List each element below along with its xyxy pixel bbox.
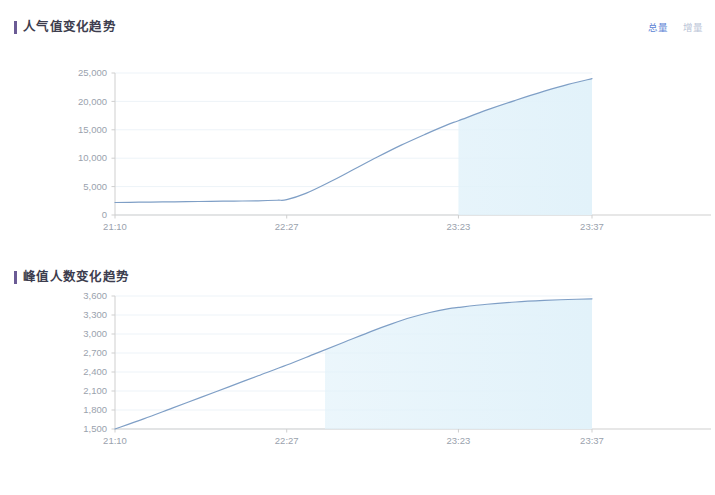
chart-popularity-trend[interactable]: 05,00010,00015,00020,00025,00021:1022:27… [0,38,715,248]
area-fill [115,299,592,429]
x-axis-label: 22:27 [275,221,299,232]
panel-header-peak: 峰值人数变化趋势 [0,250,715,288]
x-axis-label: 23:37 [580,221,604,232]
y-axis-label: 25,000 [78,67,107,78]
legend-item-increment[interactable]: 增量 [683,22,703,34]
y-axis-label: 2,400 [83,366,107,377]
y-axis-label: 0 [102,209,107,220]
page-title-peak: 峰值人数变化趋势 [14,270,129,284]
panel-title-text: 人气值变化趋势 [23,20,116,34]
x-axis-label: 23:23 [447,435,471,446]
panel-title-text: 峰值人数变化趋势 [23,270,129,284]
y-axis: 1,5001,8002,1002,4002,7003,0003,3003,600 [83,290,115,434]
y-axis-label: 20,000 [78,96,107,107]
y-axis: 05,00010,00015,00020,00025,000 [78,67,115,220]
title-accent-bar [14,21,17,34]
y-axis-label: 15,000 [78,124,107,135]
y-axis-label: 3,300 [83,309,107,320]
y-axis-label: 2,100 [83,385,107,396]
y-axis-label: 1,500 [83,423,107,434]
panel-popularity-trend: 人气值变化趋势 总量 增量 05,00010,00015,00020,00025… [0,0,715,250]
x-axis-label: 22:27 [275,435,299,446]
panel-peak-audience-trend: 峰值人数变化趋势 1,5001,8002,1002,4002,7003,0003… [0,250,715,495]
x-axis: 21:1022:2723:2323:37 [103,215,711,232]
y-axis-label: 1,800 [83,404,107,415]
y-axis-label: 3,000 [83,328,107,339]
x-axis-label: 21:10 [103,221,127,232]
x-axis: 21:1022:2723:2323:37 [103,429,711,446]
y-axis-label: 2,700 [83,347,107,358]
y-axis-label: 5,000 [83,181,107,192]
legend-popularity: 总量 增量 [648,22,703,34]
chart-peak-audience-trend[interactable]: 1,5001,8002,1002,4002,7003,0003,3003,600… [0,288,715,493]
y-axis-label: 10,000 [78,152,107,163]
y-axis-label: 3,600 [83,290,107,301]
chart-popularity-svg[interactable]: 05,00010,00015,00020,00025,00021:1022:27… [0,38,715,248]
legend-item-total[interactable]: 总量 [648,22,668,34]
title-accent-bar [14,271,17,284]
panel-header-popularity: 人气值变化趋势 总量 增量 [0,0,715,38]
x-axis-label: 23:37 [580,435,604,446]
dashboard-page: 人气值变化趋势 总量 增量 05,00010,00015,00020,00025… [0,0,715,495]
chart-peak-svg[interactable]: 1,5001,8002,1002,4002,7003,0003,3003,600… [0,288,715,493]
page-title-popularity: 人气值变化趋势 [14,20,116,34]
x-axis-label: 21:10 [103,435,127,446]
x-axis-label: 23:23 [447,221,471,232]
